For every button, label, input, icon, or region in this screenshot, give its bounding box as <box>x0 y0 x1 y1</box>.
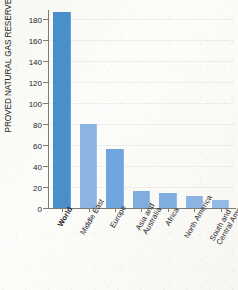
category-slot: Middle East <box>76 213 103 290</box>
bar-slot <box>49 10 75 208</box>
y-axis-tick <box>43 187 48 188</box>
category-slot: Asia and Australia <box>129 213 156 290</box>
bar-slot <box>155 10 181 208</box>
bar-slot <box>181 10 207 208</box>
y-axis-tick <box>43 124 48 125</box>
y-axis-tick <box>43 19 48 20</box>
category-slot: Europe <box>102 213 129 290</box>
y-axis-tick <box>43 166 48 167</box>
y-axis-tick-label: 20 <box>33 184 42 193</box>
category-slot: North America <box>182 213 209 290</box>
x-axis-category-labels: WorldMiddle EastEuropeAsia and Australia… <box>49 213 235 290</box>
category-slot: Africa <box>155 213 182 290</box>
bar-slot <box>208 10 234 208</box>
bar-series <box>49 10 234 208</box>
y-axis-tick-label: 160 <box>29 37 42 46</box>
y-axis-tick <box>43 82 48 83</box>
y-axis-tick-label: 180 <box>29 16 42 25</box>
y-axis-tick <box>43 40 48 41</box>
y-axis-tick-label: 80 <box>33 121 42 130</box>
category-slot: World <box>49 213 76 290</box>
category-label: World <box>57 206 75 229</box>
y-axis-tick-label: 120 <box>29 79 42 88</box>
bar <box>80 124 97 208</box>
category-slot: South and Central America <box>208 213 235 290</box>
y-axis-tick <box>43 208 48 209</box>
category-label: Africa <box>164 207 181 228</box>
y-axis-tick-label: 40 <box>33 163 42 172</box>
y-axis-tick-label: 60 <box>33 142 42 151</box>
bar <box>106 149 123 208</box>
bar-slot <box>75 10 101 208</box>
bar-slot <box>128 10 154 208</box>
bar-slot <box>102 10 128 208</box>
chart-page: PROVED NATURAL GAS RESERVES (trillion m³… <box>0 0 238 290</box>
y-axis-tick-label: 100 <box>29 100 42 109</box>
y-axis-tick <box>43 145 48 146</box>
y-axis-tick-label: 140 <box>29 58 42 67</box>
y-axis-tick-label: 0 <box>38 205 42 214</box>
plot-area: 020406080100120140160180 <box>48 10 234 209</box>
bar <box>53 12 70 208</box>
y-axis-tick <box>43 61 48 62</box>
y-axis-tick <box>43 103 48 104</box>
y-axis-title: PROVED NATURAL GAS RESERVES (trillion m³… <box>4 0 13 133</box>
